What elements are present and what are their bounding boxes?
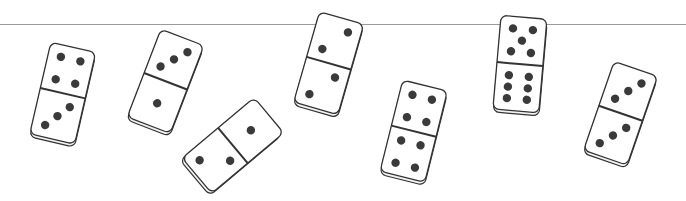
domino-tile: [492, 14, 546, 112]
domino-tile: [293, 10, 363, 113]
domino-tile: [127, 28, 204, 132]
domino-tile: [29, 41, 95, 143]
domino-tile: [583, 60, 657, 164]
domino-tile: [182, 96, 284, 192]
domino-tile: [379, 79, 446, 181]
